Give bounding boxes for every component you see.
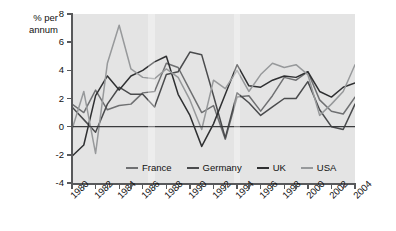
legend-item-usa[interactable]: USA — [301, 163, 337, 173]
y-tick — [67, 41, 72, 42]
x-tick — [295, 184, 296, 189]
legend-item-uk[interactable]: UK — [257, 163, 286, 173]
x-tick — [343, 184, 344, 189]
x-tick — [248, 184, 249, 189]
legend-item-germany[interactable]: Germany — [187, 163, 242, 173]
y-tick-label: -2 — [38, 149, 64, 160]
x-tick — [272, 184, 273, 189]
x-tick — [201, 184, 202, 189]
y-tick-label: -4 — [38, 177, 64, 188]
x-tick — [83, 184, 84, 189]
legend-label: Germany — [203, 163, 242, 173]
legend-line-icon — [301, 167, 313, 169]
x-tick — [319, 184, 320, 189]
legend-line-icon — [257, 167, 269, 169]
legend-item-france[interactable]: France — [126, 163, 172, 173]
legend-label: UK — [273, 163, 286, 173]
x-tick — [225, 184, 226, 189]
plot-area — [72, 14, 355, 183]
legend: FranceGermanyUKUSA — [126, 161, 336, 175]
legend-line-icon — [187, 167, 199, 169]
y-tick-label: 2 — [38, 93, 64, 104]
legend-line-icon — [126, 167, 138, 169]
x-tick — [107, 184, 108, 189]
x-tick — [178, 184, 179, 189]
y-tick-label: 4 — [38, 64, 64, 75]
x-tick — [130, 184, 131, 189]
legend-label: France — [142, 163, 172, 173]
series-lines — [72, 14, 355, 183]
y-tick — [67, 126, 72, 127]
y-tick — [67, 13, 72, 14]
y-tick — [67, 70, 72, 71]
x-tick — [154, 184, 155, 189]
y-tick-label: 8 — [38, 8, 64, 19]
line-chart-figure: % per annum -4-202468 198019821984198619… — [0, 0, 396, 231]
y-tick — [67, 154, 72, 155]
y-tick — [67, 98, 72, 99]
y-tick-label: 0 — [38, 121, 64, 132]
series-line-usa — [72, 25, 355, 153]
series-line-france — [72, 63, 355, 139]
legend-label: USA — [317, 163, 337, 173]
y-tick-label: 6 — [38, 36, 64, 47]
